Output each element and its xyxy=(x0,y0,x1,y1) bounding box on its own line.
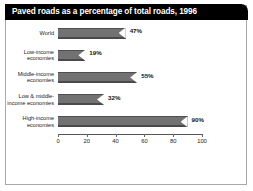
bar-row: Middle-incomeeconomies55% xyxy=(6,67,246,87)
bar-end-notch-icon xyxy=(97,94,104,105)
bar-value-label: 55% xyxy=(141,72,153,79)
bar-category-label: Middle-incomeeconomies xyxy=(6,67,54,87)
bar-value-label: 90% xyxy=(192,116,204,123)
bar-value-label: 47% xyxy=(130,27,142,34)
x-axis-line xyxy=(58,134,202,135)
bar-row: Low-incomeeconomies19% xyxy=(6,45,246,65)
bar-track: 19% xyxy=(58,45,246,65)
bar-row: World47% xyxy=(6,23,246,43)
x-axis-tick-label: 80 xyxy=(170,138,176,144)
bar xyxy=(58,50,85,61)
plot-area: World47%Low-incomeeconomies19%Middle-inc… xyxy=(6,21,246,184)
bar xyxy=(58,28,126,39)
bar-category-label: Low-incomeeconomies xyxy=(6,45,54,65)
x-axis-tick-mark xyxy=(58,134,59,137)
bar-category-label-line: economies xyxy=(27,55,54,62)
bar-track: 32% xyxy=(58,90,246,110)
bar-category-label-line: World xyxy=(39,30,54,37)
bar-category-label: Low & middle-income economies xyxy=(6,90,54,110)
bar-category-label-line: High-income xyxy=(23,115,54,122)
x-axis-tick-label: 20 xyxy=(84,138,90,144)
chart-title: Paved roads as a percentage of total roa… xyxy=(12,7,197,16)
bar-category-label: World xyxy=(6,23,54,43)
bar-track: 90% xyxy=(58,112,246,132)
x-axis-tick-mark xyxy=(87,134,88,137)
bar-category-label-line: economies xyxy=(27,122,54,129)
x-axis-tick-label: 40 xyxy=(112,138,118,144)
x-axis-tick-label: 0 xyxy=(56,138,59,144)
bar-end-notch-icon xyxy=(130,72,137,83)
bar-end-notch-icon xyxy=(181,116,188,127)
x-axis-tick-mark xyxy=(144,134,145,137)
bar-row: High-incomeeconomies90% xyxy=(6,112,246,132)
bar-category-label-line: income economies xyxy=(7,100,54,107)
bar-category-label-line: economies xyxy=(27,77,54,84)
bar-category-label-line: Middle-income xyxy=(18,71,54,78)
x-axis-tick-mark xyxy=(116,134,117,137)
chart-screenshot: Paved roads as a percentage of total roa… xyxy=(0,0,253,191)
bar-end-notch-icon xyxy=(78,50,85,61)
bar-category-label-line: Low-income xyxy=(24,49,54,56)
bar-category-label: High-incomeeconomies xyxy=(6,112,54,132)
x-axis-tick-label: 60 xyxy=(141,138,147,144)
bar-value-label: 32% xyxy=(108,94,120,101)
bar-end-notch-icon xyxy=(119,28,126,39)
x-axis-tick-mark xyxy=(173,134,174,137)
bar-row: Low & middle-income economies32% xyxy=(6,90,246,110)
x-axis-tick-mark xyxy=(202,134,203,137)
chart-title-bar: Paved roads as a percentage of total roa… xyxy=(5,4,248,20)
bar-track: 55% xyxy=(58,67,246,87)
bar-track: 47% xyxy=(58,23,246,43)
bar xyxy=(58,116,188,127)
bar xyxy=(58,94,104,105)
bar xyxy=(58,72,137,83)
bar-value-label: 19% xyxy=(89,49,101,56)
x-axis-tick-label: 100 xyxy=(197,138,207,144)
bar-category-label-line: Low & middle- xyxy=(19,93,54,100)
